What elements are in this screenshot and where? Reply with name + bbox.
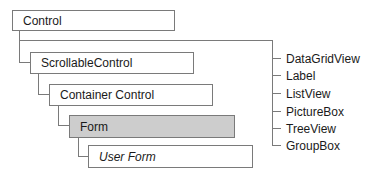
leaf-datagridview: DataGridView (286, 53, 360, 65)
node-container-control: Container Control (49, 84, 213, 106)
leaf-picturebox: PictureBox (286, 106, 344, 118)
leaf-listview: ListView (286, 88, 330, 100)
tick-label (272, 75, 281, 76)
connector-form-userform-h (78, 156, 88, 157)
tick-groupbox (272, 145, 281, 146)
connector-container-form-h (58, 125, 69, 126)
connector-control-scrollable-h (19, 62, 30, 63)
node-user-form: User Form (88, 145, 253, 168)
node-label: Container Control (60, 89, 154, 101)
node-label: User Form (99, 151, 156, 163)
leaf-label: Label (286, 70, 315, 82)
connector-form-userform (78, 137, 79, 157)
tick-datagridview (272, 58, 281, 59)
tick-listview (272, 93, 281, 94)
node-label: Form (80, 121, 108, 133)
tick-treeview (272, 128, 281, 129)
connector-scrollable-container (38, 73, 39, 95)
leaf-groupbox: GroupBox (286, 140, 340, 152)
node-form: Form (69, 115, 235, 138)
leaf-treeview: TreeView (286, 123, 336, 135)
connector-control-scrollable (19, 30, 20, 63)
tick-picturebox (272, 111, 281, 112)
node-label: Control (23, 15, 62, 27)
connector-container-form (58, 105, 59, 126)
connector-scrollable-container-h (38, 94, 49, 95)
node-label: ScrollableControl (41, 57, 132, 69)
node-scrollable-control: ScrollableControl (30, 52, 194, 74)
node-control: Control (12, 10, 175, 31)
connector-control-siblings-h (19, 40, 273, 41)
